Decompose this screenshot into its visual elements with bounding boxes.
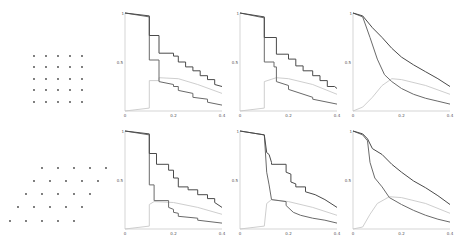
x-tick-label: 0.4 [447, 113, 454, 118]
series-upper-line [240, 13, 337, 89]
series-lower-line [353, 13, 450, 104]
x-tick-label: 0.2 [170, 231, 177, 236]
lattice-point [33, 55, 35, 57]
plot-row1-col2: 00.20.40.51 [227, 6, 342, 121]
x-tick-label: 0.2 [285, 231, 292, 236]
y-tick-label: 1 [236, 11, 239, 16]
lattice-point [33, 206, 35, 208]
lattice-point [81, 89, 83, 91]
x-tick-label: 0 [352, 231, 355, 236]
lattice-point [73, 193, 75, 195]
x-tick-label: 0.2 [285, 113, 292, 118]
y-tick-label: 0.5 [345, 178, 352, 183]
x-tick-label: 0 [239, 113, 242, 118]
x-tick-label: 0.2 [398, 231, 405, 236]
lattice-point [69, 89, 71, 91]
lattice-point [97, 180, 99, 182]
lattice-point [65, 206, 67, 208]
lattice-point [33, 101, 35, 103]
lattice-point [57, 89, 59, 91]
series-upper-line [125, 131, 222, 207]
lattice-point [33, 89, 35, 91]
lattice-point [81, 180, 83, 182]
y-tick-label: 1 [349, 11, 352, 16]
lattice-point [41, 193, 43, 195]
lattice-point [69, 66, 71, 68]
lattice-point [45, 78, 47, 80]
lattice-point [57, 55, 59, 57]
series-rising-line [125, 78, 222, 111]
lattice-point [69, 101, 71, 103]
lattice-point [81, 206, 83, 208]
plot-row1-col1: 00.20.40.51 [112, 6, 227, 121]
x-tick-label: 0.4 [219, 231, 226, 236]
x-tick-label: 0.2 [398, 113, 405, 118]
lattice-point [57, 193, 59, 195]
series-upper-line [353, 13, 450, 87]
lattice-point [105, 167, 107, 169]
series-rising-line [353, 79, 450, 111]
y-tick-label: 0.5 [345, 60, 352, 65]
x-tick-label: 0.4 [447, 231, 454, 236]
lattice-point [25, 193, 27, 195]
plot-row2-col1: 00.20.40.51 [112, 124, 227, 239]
lattice-point [57, 78, 59, 80]
square-lattice-diagram [0, 0, 120, 124]
lattice-point [69, 78, 71, 80]
series-rising-line [240, 200, 337, 229]
series-upper-line [125, 13, 222, 87]
x-tick-label: 0.4 [219, 113, 226, 118]
y-tick-label: 1 [236, 129, 239, 134]
lattice-point [89, 167, 91, 169]
lattice-point [81, 55, 83, 57]
plot-row2-col3: 00.20.40.51 [340, 124, 455, 239]
series-upper-line [240, 131, 337, 207]
lattice-point [41, 167, 43, 169]
lattice-point [33, 66, 35, 68]
lattice-point [57, 220, 59, 222]
plot-row1-col3: 00.20.40.51 [340, 6, 455, 121]
y-tick-label: 1 [121, 11, 124, 16]
lattice-point [9, 220, 11, 222]
lattice-point [45, 66, 47, 68]
series-rising-line [125, 202, 222, 229]
lattice-point [57, 101, 59, 103]
lattice-point [33, 78, 35, 80]
lattice-point [69, 55, 71, 57]
x-tick-label: 0.2 [170, 113, 177, 118]
lattice-point [81, 78, 83, 80]
x-tick-label: 0 [124, 231, 127, 236]
series-lower-line [353, 131, 450, 222]
y-tick-label: 0.5 [117, 60, 124, 65]
lattice-point [73, 220, 75, 222]
y-tick-label: 0.5 [232, 178, 239, 183]
y-tick-label: 1 [121, 129, 124, 134]
lattice-point [41, 220, 43, 222]
hexagonal-lattice-diagram [0, 124, 120, 248]
lattice-point [33, 180, 35, 182]
lattice-point [57, 167, 59, 169]
lattice-point [81, 101, 83, 103]
series-rising-line [240, 78, 337, 111]
lattice-point [65, 180, 67, 182]
plot-row2-col2: 00.20.40.51 [227, 124, 342, 239]
lattice-point [17, 206, 19, 208]
lattice-point [73, 167, 75, 169]
x-tick-label: 0 [239, 231, 242, 236]
lattice-point [49, 180, 51, 182]
series-lower-line [240, 131, 337, 223]
series-rising-line [353, 197, 450, 229]
y-tick-label: 1 [349, 129, 352, 134]
lattice-point [81, 66, 83, 68]
lattice-point [45, 55, 47, 57]
x-tick-label: 0 [352, 113, 355, 118]
y-tick-label: 0.5 [232, 60, 239, 65]
lattice-point [49, 206, 51, 208]
lattice-point [45, 101, 47, 103]
y-tick-label: 0.5 [117, 178, 124, 183]
x-tick-label: 0 [124, 113, 127, 118]
lattice-point [57, 66, 59, 68]
lattice-point [45, 89, 47, 91]
series-lower-line [125, 13, 222, 105]
lattice-point [89, 193, 91, 195]
